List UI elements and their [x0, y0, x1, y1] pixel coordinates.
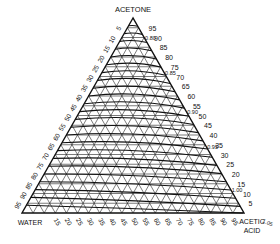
- right-tick-label: 10: [243, 191, 251, 198]
- bottom-tick-label: 85: [208, 217, 218, 227]
- bottom-tick-label: 30: [86, 217, 96, 227]
- density-curve: [93, 86, 175, 92]
- vertex-label-water: WATER: [18, 219, 43, 226]
- left-tick-label: 35: [79, 83, 89, 93]
- density-curve: [35, 190, 235, 199]
- left-tick-label: 70: [40, 151, 50, 161]
- left-tick-label: 75: [35, 161, 45, 171]
- bottom-tick-label: 40: [108, 217, 118, 227]
- left-tick-label: 40: [74, 93, 84, 103]
- bottom-tick-label: 55: [141, 217, 151, 227]
- left-tick-label: 60: [52, 132, 62, 142]
- density-curve: [84, 102, 184, 108]
- density-label: 1.00: [232, 187, 243, 193]
- grid-line: [233, 203, 239, 213]
- density-curve: [89, 94, 180, 100]
- left-tick-label: 85: [24, 180, 34, 190]
- left-tick-label: 95: [13, 200, 23, 210]
- bottom-tick-label: 80: [197, 217, 207, 227]
- left-tick-label: 80: [29, 171, 39, 181]
- left-tick-label: 15: [102, 44, 112, 54]
- left-tick-label: 25: [90, 63, 100, 73]
- density-label: 0.80: [145, 35, 156, 41]
- bottom-tick-label: 65: [164, 217, 174, 227]
- grid-line: [105, 67, 188, 213]
- left-tick-label: 65: [46, 141, 56, 151]
- bottom-tick-label: 50: [130, 217, 140, 227]
- right-tick-label: 50: [199, 113, 207, 120]
- density-curve: [124, 33, 142, 34]
- density-label: 0.85: [165, 70, 176, 76]
- grid-line: [127, 28, 232, 213]
- density-label: 0.95: [207, 144, 218, 150]
- density-curve: [129, 25, 138, 26]
- grid-line: [61, 145, 100, 213]
- right-tick-label: 20: [232, 171, 240, 178]
- bottom-tick-label: 35: [97, 217, 107, 227]
- right-tick-label: 60: [187, 93, 195, 100]
- bottom-tick-label: 60: [153, 217, 163, 227]
- right-tick-label: 25: [226, 161, 234, 168]
- right-tick-label: 70: [176, 74, 184, 81]
- right-tick-label: 45: [204, 122, 212, 129]
- right-tick-label: 95: [149, 25, 157, 32]
- right-tick-label: 85: [160, 44, 168, 51]
- bottom-tick-label: 70: [175, 217, 185, 227]
- bottom-tick-label: 20: [64, 217, 74, 227]
- density-curve: [115, 48, 151, 51]
- right-tick-label: 40: [210, 132, 218, 139]
- left-tick-label: 45: [68, 102, 78, 112]
- density-curve: [62, 142, 208, 149]
- bottom-tick-label: 15: [53, 217, 63, 227]
- vertex-label-acetone: ACETONE: [115, 5, 151, 14]
- density-curve: [120, 40, 147, 42]
- left-tick-label: 20: [96, 54, 106, 64]
- vertex-label-acid: ACID: [244, 227, 261, 234]
- left-tick-label: 90: [18, 190, 28, 200]
- right-tick-label: 5: [248, 200, 252, 207]
- left-tick-label: 30: [85, 73, 95, 83]
- density-curve: [31, 197, 240, 206]
- bottom-tick-label: 90: [219, 217, 229, 227]
- density-curve: [26, 205, 242, 213]
- right-tick-label: 65: [182, 83, 190, 90]
- bottom-tick-label: 45: [119, 217, 129, 227]
- vertex-label-acetic: ACETIC: [239, 218, 265, 225]
- density-curve: [66, 134, 203, 141]
- bottom-tick-label: 25: [75, 217, 85, 227]
- bottom-tick-label: 75: [186, 217, 196, 227]
- left-tick-label: 10: [107, 34, 117, 44]
- right-tick-label: 30: [221, 152, 229, 159]
- density-label: 0.90: [187, 109, 198, 115]
- left-tick-label: 5: [114, 24, 122, 31]
- left-tick-label: 50: [63, 112, 73, 122]
- right-tick-label: 80: [165, 54, 173, 61]
- left-tick-label: 55: [57, 122, 67, 132]
- ternary-diagram: 9590858075706560555045403530252015105510…: [0, 0, 280, 244]
